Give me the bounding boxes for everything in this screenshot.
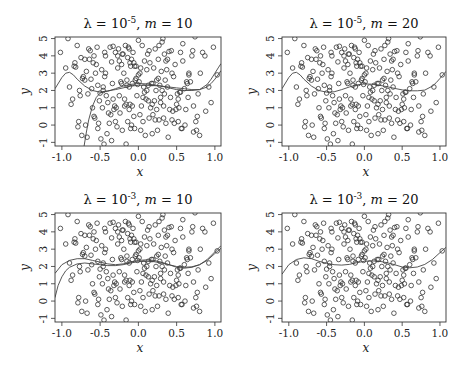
plot-frame bbox=[55, 37, 221, 146]
y-tick-label: 4 bbox=[37, 228, 49, 235]
panel-1: λ = 10-5, m = 10-1.0-0.50.00.51.0x-10123… bbox=[18, 15, 223, 179]
panel-title: λ = 10-5, m = 20 bbox=[309, 15, 418, 31]
panel-2: λ = 10-5, m = 20-1.0-0.50.00.51.0x-10123… bbox=[245, 15, 448, 179]
panel-4: λ = 10-3, m = 20-1.0-0.50.00.51.0x-10123… bbox=[245, 191, 448, 355]
y-axis-label: y bbox=[245, 88, 259, 96]
y-axis: -1012345y bbox=[18, 211, 55, 323]
y-tick-label: 1 bbox=[264, 280, 276, 287]
y-axis-label: y bbox=[18, 88, 32, 96]
y-tick-label: 0 bbox=[264, 298, 276, 305]
y-tick-label: -1 bbox=[37, 137, 49, 147]
y-tick-label: 3 bbox=[37, 246, 49, 253]
x-axis-label: x bbox=[363, 165, 370, 179]
x-axis: -1.0-0.50.00.51.0x bbox=[279, 322, 449, 355]
y-tick-label: 5 bbox=[37, 211, 49, 218]
x-tick-label: 0.5 bbox=[168, 327, 185, 339]
x-tick-label: 0.0 bbox=[130, 327, 147, 339]
x-tick-label: 0.5 bbox=[394, 151, 411, 163]
x-tick-label: -0.5 bbox=[316, 151, 336, 163]
y-tick-label: 2 bbox=[264, 87, 276, 94]
scatter-points bbox=[285, 211, 445, 323]
x-axis-label: x bbox=[137, 341, 144, 355]
y-tick-label: 5 bbox=[264, 211, 276, 218]
y-tick-label: -1 bbox=[264, 137, 276, 147]
y-tick-label: -1 bbox=[37, 313, 49, 323]
y-tick-label: 0 bbox=[37, 122, 49, 129]
y-tick-label: 5 bbox=[37, 35, 49, 42]
y-tick-label: 2 bbox=[37, 263, 49, 270]
x-axis: -1.0-0.50.00.51.0x bbox=[279, 146, 449, 179]
y-axis: -1012345y bbox=[245, 211, 282, 323]
x-tick-label: -1.0 bbox=[52, 327, 72, 339]
x-tick-label: 0.5 bbox=[394, 327, 411, 339]
x-tick-label: -0.5 bbox=[90, 327, 110, 339]
y-tick-label: 1 bbox=[37, 104, 49, 111]
y-axis: -1012345y bbox=[18, 35, 55, 147]
plot-frame bbox=[55, 213, 221, 322]
x-axis: -1.0-0.50.00.51.0x bbox=[52, 322, 223, 355]
y-axis-label: y bbox=[18, 264, 32, 272]
y-tick-label: -1 bbox=[264, 313, 276, 323]
x-axis-label: x bbox=[137, 165, 144, 179]
x-tick-label: 0.0 bbox=[130, 151, 147, 163]
panel-3: λ = 10-3, m = 10-1.0-0.50.00.51.0x-10123… bbox=[18, 191, 223, 355]
x-tick-label: -0.5 bbox=[316, 327, 336, 339]
x-tick-label: 0.0 bbox=[356, 151, 373, 163]
y-tick-label: 0 bbox=[264, 122, 276, 129]
x-tick-label: -1.0 bbox=[279, 151, 299, 163]
x-tick-label: 1.0 bbox=[432, 327, 449, 339]
y-tick-label: 3 bbox=[264, 70, 276, 77]
y-axis-label: y bbox=[245, 264, 259, 272]
y-tick-label: 1 bbox=[264, 104, 276, 111]
x-tick-label: 0.0 bbox=[356, 327, 373, 339]
y-tick-label: 2 bbox=[264, 263, 276, 270]
x-axis-label: x bbox=[363, 341, 370, 355]
x-tick-label: 1.0 bbox=[432, 151, 449, 163]
x-tick-label: 1.0 bbox=[207, 327, 224, 339]
y-tick-label: 2 bbox=[37, 87, 49, 94]
x-axis: -1.0-0.50.00.51.0x bbox=[52, 146, 223, 179]
y-tick-label: 1 bbox=[37, 280, 49, 287]
y-tick-label: 4 bbox=[37, 52, 49, 59]
x-tick-label: -1.0 bbox=[279, 327, 299, 339]
x-tick-label: -0.5 bbox=[90, 151, 110, 163]
y-tick-label: 4 bbox=[264, 228, 276, 235]
panel-title: λ = 10-3, m = 20 bbox=[309, 191, 418, 207]
y-axis: -1012345y bbox=[245, 35, 282, 147]
x-tick-label: 0.5 bbox=[168, 151, 185, 163]
y-tick-label: 3 bbox=[264, 246, 276, 253]
y-tick-label: 4 bbox=[264, 52, 276, 59]
panel-title: λ = 10-5, m = 10 bbox=[83, 15, 192, 31]
x-tick-label: 1.0 bbox=[207, 151, 224, 163]
y-tick-label: 0 bbox=[37, 298, 49, 305]
y-tick-label: 3 bbox=[37, 70, 49, 77]
x-tick-label: -1.0 bbox=[52, 151, 72, 163]
figure: λ = 10-5, m = 10-1.0-0.50.00.51.0x-10123… bbox=[0, 0, 466, 370]
panel-title: λ = 10-3, m = 10 bbox=[83, 191, 192, 207]
y-tick-label: 5 bbox=[264, 35, 276, 42]
